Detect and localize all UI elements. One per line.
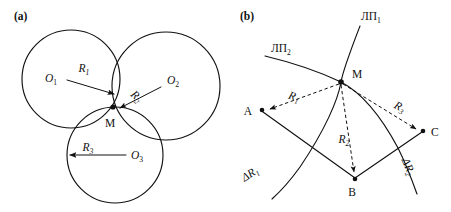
label-r1-panel-b-group: R1 <box>285 89 301 107</box>
circle-2 <box>112 32 220 140</box>
range-line-r2 <box>341 85 354 172</box>
circle-1 <box>22 30 120 128</box>
label-r2-panel-b: R2 <box>338 133 350 148</box>
label-lp1: ЛП1 <box>361 10 381 25</box>
label-r3-panel-b: R3 <box>390 98 407 117</box>
vertex-a <box>260 108 265 113</box>
label-a: A <box>244 105 253 117</box>
label-o1: O1 <box>45 72 57 87</box>
label-o3: O3 <box>131 149 143 164</box>
label-delta-r2: ΔR2 <box>397 155 418 178</box>
label-o2: O2 <box>167 74 179 89</box>
label-r3-panel-b-group: R3 <box>390 98 407 117</box>
label-lp2: ЛП2 <box>271 42 291 57</box>
panel-label-a: (a) <box>14 10 28 23</box>
label-m-panel-a: M <box>105 117 115 129</box>
panel-label-b: (b) <box>240 10 254 23</box>
label-delta-r1: ΔR1 <box>238 164 261 186</box>
figure-root: O1 O2 O3 M R1 R2 R3 <box>0 0 451 212</box>
label-m-panel-b: M <box>352 68 362 80</box>
figure-canvas: O1 O2 O3 M R1 R2 R3 <box>0 0 451 212</box>
label-c: C <box>431 126 439 138</box>
label-r1-panel-a: R1 <box>78 62 90 77</box>
panel-a: O1 O2 O3 M R1 R2 R3 <box>22 30 220 203</box>
range-line-r3 <box>343 84 416 129</box>
label-r3-panel-a: R3 <box>82 141 94 156</box>
vertex-c <box>421 129 426 134</box>
label-delta-r2-group: ΔR2 <box>397 155 418 178</box>
vertex-b <box>353 177 358 182</box>
label-delta-r1-group: ΔR1 <box>238 164 261 186</box>
position-line-lp2 <box>265 56 417 194</box>
radius-arrow-1 <box>67 80 114 94</box>
label-r1-panel-b: R1 <box>285 89 301 107</box>
vertex-m <box>338 79 344 85</box>
panel-b: ЛП1 ЛП2 ΔR1 ΔR2 M A B C R1 R2 R3 <box>238 10 439 199</box>
intersection-point-m <box>110 104 115 109</box>
side-a-b <box>263 112 355 178</box>
label-b: B <box>348 186 356 198</box>
range-line-r1 <box>270 84 339 109</box>
